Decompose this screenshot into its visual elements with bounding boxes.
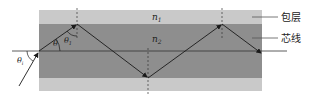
label-core: 芯线 <box>281 32 301 44</box>
incident-angle-arc <box>27 51 33 61</box>
cladding-bottom <box>39 78 262 91</box>
cladding-top <box>39 10 262 24</box>
label-theta: θ <box>53 39 58 48</box>
label-theta-i: θi <box>17 56 24 66</box>
incident-ray <box>19 53 38 86</box>
label-cladding: 包层 <box>281 11 301 23</box>
fiber-diagram: n1 n2 θi θ θ1 包层 芯线 <box>0 0 316 102</box>
